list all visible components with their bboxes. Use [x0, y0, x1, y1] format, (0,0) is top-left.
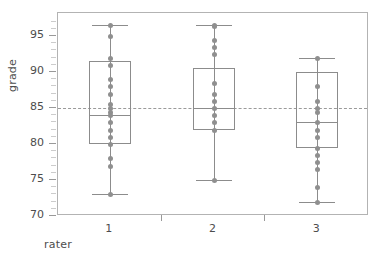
data-point [315, 135, 320, 140]
data-point [108, 92, 113, 97]
data-point [212, 52, 217, 57]
data-point [315, 167, 320, 172]
x-tick-label: 3 [296, 222, 336, 235]
y-tick-minor [51, 165, 56, 166]
data-point [315, 200, 320, 205]
y-tick-minor [51, 201, 56, 202]
data-point [212, 113, 217, 118]
data-point [315, 110, 320, 115]
boxplot-figure: grade rater 707580859095 123 [0, 0, 377, 262]
data-point [212, 38, 217, 43]
y-tick-major [49, 107, 56, 108]
data-point [315, 99, 320, 104]
data-point [315, 185, 320, 190]
data-point [108, 63, 113, 68]
data-point [315, 160, 320, 165]
data-point [212, 24, 217, 29]
y-tick-minor [51, 78, 56, 79]
y-tick-minor [51, 172, 56, 173]
y-tick-label: 95 [18, 28, 44, 41]
data-point [108, 34, 113, 39]
data-point [108, 142, 113, 147]
x-tick-label: 1 [89, 222, 129, 235]
y-tick-minor [51, 186, 56, 187]
data-point [212, 45, 217, 50]
data-point [212, 99, 217, 104]
y-tick-minor [51, 193, 56, 194]
y-tick-minor [51, 85, 56, 86]
data-point [212, 81, 217, 86]
y-tick-minor [51, 129, 56, 130]
data-point [108, 164, 113, 169]
y-tick-major [49, 35, 56, 36]
data-point [108, 23, 113, 28]
y-tick-minor [51, 150, 56, 151]
x-tick-label: 2 [193, 222, 233, 235]
data-point [108, 156, 113, 161]
y-tick-minor [51, 100, 56, 101]
y-tick-major [49, 179, 56, 180]
y-tick-major [49, 71, 56, 72]
y-tick-minor [51, 208, 56, 209]
y-tick-minor [51, 157, 56, 158]
y-tick-minor [51, 121, 56, 122]
data-point [315, 153, 320, 158]
data-point [108, 192, 113, 197]
data-point [212, 92, 217, 97]
data-point [315, 128, 320, 133]
y-tick-label: 85 [18, 100, 44, 113]
data-point [315, 146, 320, 151]
data-point [212, 128, 217, 133]
y-tick-minor [51, 21, 56, 22]
x-axis-label: rater [44, 238, 72, 251]
y-tick-minor [51, 42, 56, 43]
y-tick-minor [51, 64, 56, 65]
y-tick-label: 75 [18, 172, 44, 185]
data-point [108, 56, 113, 61]
x-tick-separator [264, 215, 265, 221]
data-point [108, 135, 113, 140]
y-tick-label: 90 [18, 64, 44, 77]
data-point [212, 178, 217, 183]
x-tick-separator [161, 215, 162, 221]
y-tick-minor [51, 114, 56, 115]
data-point [315, 56, 320, 61]
y-tick-label: 70 [18, 208, 44, 221]
plot-area [57, 12, 368, 215]
y-tick-major [49, 215, 56, 216]
y-tick-minor [51, 49, 56, 50]
data-point [108, 128, 113, 133]
y-tick-label: 80 [18, 136, 44, 149]
y-tick-minor [51, 93, 56, 94]
data-point [212, 106, 217, 111]
data-point [212, 120, 217, 125]
y-tick-minor [51, 28, 56, 29]
y-tick-major [49, 143, 56, 144]
y-tick-minor [51, 57, 56, 58]
y-tick-minor [51, 136, 56, 137]
